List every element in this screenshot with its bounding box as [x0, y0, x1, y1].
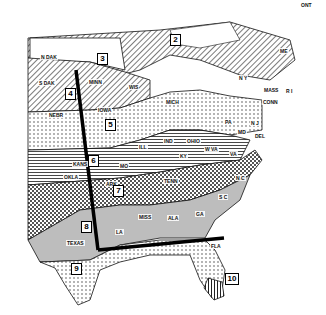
state-label: R I	[285, 88, 293, 94]
state-label: S C	[218, 194, 228, 200]
state-label: GA	[195, 211, 205, 217]
state-label: CONN	[262, 99, 279, 105]
zone-number-box: 6	[88, 155, 99, 167]
state-label: ALA	[167, 215, 179, 221]
state-label: MISS	[138, 214, 152, 220]
state-label: MO	[119, 163, 129, 169]
state-label: WIS	[128, 84, 139, 90]
state-label: LA	[115, 229, 124, 235]
state-label: PA	[224, 119, 233, 125]
state-label: TEXAS	[66, 240, 85, 246]
state-label: MASS	[263, 87, 279, 93]
state-label: N J	[250, 120, 260, 126]
state-label: MICH	[165, 99, 180, 105]
usda-zone-map	[0, 0, 326, 315]
state-label: OKLA	[63, 174, 79, 180]
state-label: TENN	[163, 178, 179, 184]
state-label: ME	[279, 48, 289, 54]
state-label: DEL	[254, 133, 266, 139]
state-label: OHIO	[186, 138, 201, 144]
state-label: VA	[229, 151, 238, 157]
zone-number-box: 10	[225, 273, 239, 285]
state-label: S DAK	[38, 80, 56, 86]
zone-number-box: 8	[81, 221, 92, 233]
state-label: MD	[237, 129, 247, 135]
state-label: IND	[163, 138, 174, 144]
state-label: KY	[179, 153, 188, 159]
zone-number-box: 3	[97, 53, 108, 65]
state-label: N Y	[238, 75, 248, 81]
state-label: KANS	[72, 161, 88, 167]
zone-region-10	[204, 278, 224, 300]
state-label: ONT	[300, 2, 313, 8]
state-label: ILL	[138, 144, 148, 150]
state-label: IOWA	[97, 107, 112, 113]
zone-number-box: 9	[71, 263, 82, 275]
zone-number-box: 4	[65, 88, 76, 100]
state-label: NEBR	[48, 112, 64, 118]
state-label: MINN	[88, 79, 103, 85]
zone-number-box: 2	[170, 34, 181, 46]
state-label: W VA	[204, 146, 219, 152]
zone-number-box: 5	[105, 119, 116, 131]
zone-number-box: 7	[113, 185, 124, 197]
state-label: FLA	[210, 243, 222, 249]
state-label: N DAK	[40, 54, 58, 60]
state-label: N C	[235, 175, 246, 181]
